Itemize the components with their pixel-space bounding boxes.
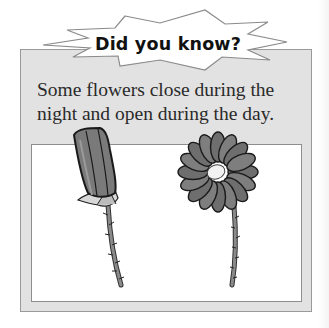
flowers-illustration (0, 0, 329, 328)
closed-flower-icon (74, 128, 124, 285)
open-flower-icon (178, 132, 258, 285)
